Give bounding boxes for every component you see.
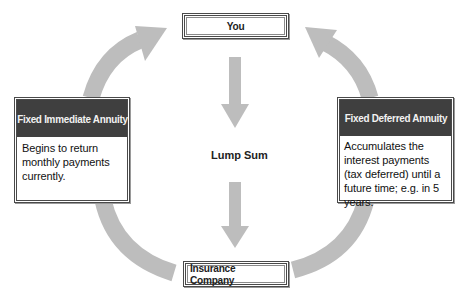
lump-sum-label: Lump Sum [211,149,268,161]
down-arrow-bottom-icon [221,226,249,248]
arc-deferred-to-you [324,42,370,98]
deferred-annuity-description: Accumulates the interest payments (tax d… [340,136,451,212]
deferred-annuity-title: Fixed Deferred Annuity [344,112,447,124]
node-insurance-label: Insurance Company [190,262,282,286]
arc-immediate-to-you [91,40,140,98]
node-you-label: You [227,20,245,32]
node-fixed-deferred-annuity: Fixed Deferred Annuity Accumulates the i… [337,97,454,203]
immediate-annuity-description: Begins to return monthly payments curren… [17,137,127,187]
immediate-annuity-header: Fixed Immediate Annuity [17,100,127,137]
down-arrow-top-icon [221,104,249,128]
node-fixed-immediate-annuity: Fixed Immediate Annuity Begins to return… [14,97,130,203]
center-arrow-top-shaft [229,57,241,105]
immediate-annuity-title: Fixed Immediate Annuity [17,113,128,125]
arc-insurance-to-immediate [103,200,174,273]
center-arrow-bottom-shaft [229,182,241,227]
node-you: You [182,13,289,39]
deferred-annuity-header: Fixed Deferred Annuity [340,100,451,136]
node-insurance-company: Insurance Company [183,261,289,287]
